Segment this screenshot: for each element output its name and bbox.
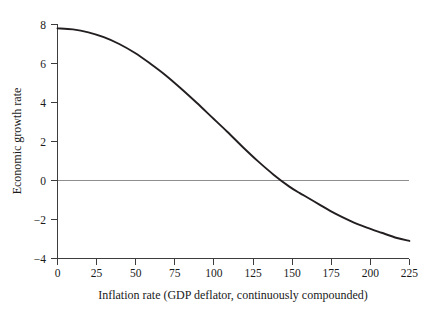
x-tick-label: 50 xyxy=(130,267,142,279)
inflation-growth-line-chart: 8 6 4 2 0 −2 −4 0 25 50 75 100 xyxy=(0,0,430,315)
y-tick-label: −4 xyxy=(34,253,46,265)
chart-figure: 8 6 4 2 0 −2 −4 0 25 50 75 100 xyxy=(0,0,430,315)
y-tick-label: −2 xyxy=(34,214,46,226)
x-tick-label: 200 xyxy=(362,267,380,279)
y-tick-label: 8 xyxy=(40,19,46,31)
x-tick-label: 75 xyxy=(169,267,181,279)
y-tick-label: 6 xyxy=(40,58,46,70)
x-tick-label: 0 xyxy=(55,267,61,279)
y-axis-title: Economic growth rate xyxy=(10,88,24,195)
y-tick-label: 0 xyxy=(40,175,46,187)
y-tick-label: 2 xyxy=(40,136,46,148)
x-tick-label: 25 xyxy=(91,267,103,279)
x-tick-label: 100 xyxy=(205,267,223,279)
x-tick-label: 125 xyxy=(244,267,262,279)
y-tick-label: 4 xyxy=(40,97,46,109)
x-tick-label: 175 xyxy=(323,267,341,279)
x-tick-label: 225 xyxy=(401,267,419,279)
x-axis-title: Inflation rate (GDP deflator, continuous… xyxy=(98,288,368,302)
x-tick-label: 150 xyxy=(283,267,301,279)
